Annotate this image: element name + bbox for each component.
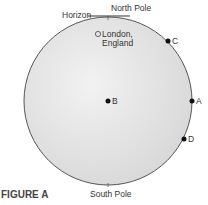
point-b-dot [106, 99, 111, 104]
south-pole-label: South Pole [90, 189, 132, 199]
globe-diagram: Horizon North Pole South Pole London, En… [0, 0, 208, 205]
horizon-label: Horizon [62, 10, 92, 20]
figure-caption: FIGURE A [1, 189, 48, 200]
point-c-dot [166, 39, 171, 44]
point-b-label: B [112, 96, 118, 106]
point-a-label: A [196, 96, 202, 106]
point-d-dot [182, 137, 187, 142]
london-label-line2: England [102, 38, 133, 48]
north-pole-label: North Pole [111, 3, 151, 13]
point-c-label: C [172, 36, 178, 46]
point-d-label: D [188, 134, 194, 144]
point-a-dot [190, 99, 195, 104]
